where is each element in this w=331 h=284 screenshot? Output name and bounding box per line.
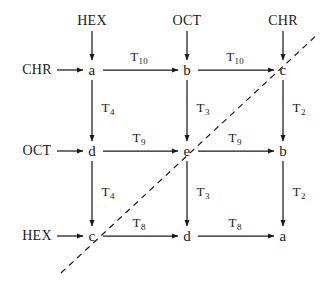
source-label-hex-top: HEX: [77, 14, 107, 28]
edge-label-t2-col2-lower: T2: [293, 185, 306, 198]
edge-label-t8-row2-right: T8: [229, 216, 242, 229]
node-d-row1: d: [88, 144, 96, 159]
edge-label-t8-row2-left: T8: [133, 216, 146, 229]
edge-label-t9-row1-left: T9: [133, 131, 146, 144]
node-a-row0: a: [89, 63, 96, 78]
edge-label-base: T: [197, 100, 205, 115]
source-label-chr-left: CHR: [22, 63, 52, 77]
source-label-hex-left: HEX: [22, 229, 52, 243]
edge-label-t3-col1-lower: T3: [197, 185, 210, 198]
edge-label-sub: 9: [237, 137, 242, 147]
node-c-row0: c: [280, 63, 287, 78]
diagram-canvas: a b c d e b c d a HEX OCT CHR CHR OCT HE…: [0, 0, 331, 284]
edge-label-base: T: [102, 184, 110, 199]
source-label-chr-top: CHR: [268, 14, 298, 28]
edge-label-sub: 4: [110, 191, 115, 201]
edge-label-t4-col0-lower: T4: [102, 185, 115, 198]
edge-label-sub: 8: [141, 222, 146, 232]
edge-label-sub: 2: [301, 107, 306, 117]
node-b-row0: b: [183, 63, 191, 78]
node-c-row2: c: [89, 229, 96, 244]
source-label-oct-left: OCT: [23, 144, 52, 158]
edge-label-base: T: [130, 49, 138, 64]
edge-label-sub: 10: [139, 56, 148, 66]
edge-label-sub: 3: [205, 191, 210, 201]
node-e-row1: e: [184, 144, 191, 159]
edge-label-base: T: [102, 100, 110, 115]
edge-label-base: T: [229, 215, 237, 230]
edge-label-t9-row1-right: T9: [229, 131, 242, 144]
edge-label-sub: 4: [110, 107, 115, 117]
node-b-row1: b: [279, 144, 287, 159]
edge-label-t10-row0-right: T10: [226, 50, 244, 63]
edge-label-sub: 3: [205, 107, 210, 117]
edge-label-sub: 8: [237, 222, 242, 232]
edge-label-base: T: [226, 49, 234, 64]
node-d-row2: d: [183, 229, 191, 244]
edge-label-base: T: [293, 184, 301, 199]
edge-label-t2-col2-upper: T2: [293, 101, 306, 114]
node-a-row2: a: [280, 229, 287, 244]
edge-label-base: T: [133, 215, 141, 230]
edge-label-sub: 2: [301, 191, 306, 201]
edge-label-base: T: [229, 130, 237, 145]
edge-label-t10-row0-left: T10: [130, 50, 148, 63]
edge-label-base: T: [133, 130, 141, 145]
edge-label-t3-col1-upper: T3: [197, 101, 210, 114]
edge-label-t4-col0-upper: T4: [102, 101, 115, 114]
edge-label-sub: 10: [235, 56, 244, 66]
edge-label-base: T: [197, 184, 205, 199]
source-label-oct-top: OCT: [173, 14, 202, 28]
edge-label-base: T: [293, 100, 301, 115]
edge-label-sub: 9: [141, 137, 146, 147]
